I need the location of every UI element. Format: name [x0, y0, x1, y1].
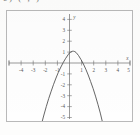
x-tick-labels: -4 -3 -2 -1 1 2 3 4 5	[19, 67, 130, 73]
y-tick-label: -2	[61, 82, 66, 88]
y-tick-label: -1	[61, 71, 66, 77]
worksheet-graph-screenshot: c) ( , )	[0, 0, 140, 135]
y-axis-label: y	[72, 14, 76, 20]
y-tick-labels: 4 3 2 1 -1 -2 -3 -4 -5	[61, 16, 66, 120]
x-tick-label: 4	[117, 67, 120, 73]
x-tick-label: -2	[43, 67, 48, 73]
cropped-header-text: c) ( , )	[0, 0, 140, 8]
y-tick-label: -5	[61, 114, 66, 120]
y-tick-label: 4	[63, 16, 66, 22]
parabola-curve	[42, 51, 102, 121]
x-tick-label: 3	[105, 67, 108, 73]
x-tick-label: -3	[31, 67, 36, 73]
x-tick-label: 2	[92, 67, 95, 73]
x-tick-label: 5	[127, 67, 130, 73]
y-tick-label: 3	[63, 27, 66, 33]
plot-frame: -4 -3 -2 -1 1 2 3 4 5 4 3 2 1 -1 -2 -3 -…	[6, 10, 133, 122]
x-tick-label: -4	[19, 67, 24, 73]
y-tick-label: 2	[63, 38, 66, 44]
x-axis-label: x	[125, 55, 129, 61]
header-fragment-text: c) ( , )	[3, 0, 41, 3]
y-tick-label: -4	[61, 103, 66, 109]
cartesian-plot: -4 -3 -2 -1 1 2 3 4 5 4 3 2 1 -1 -2 -3 -…	[7, 11, 132, 121]
y-tick-label: 1	[63, 49, 66, 55]
x-tick-label: 1	[80, 67, 83, 73]
y-tick-label: -3	[61, 93, 66, 99]
